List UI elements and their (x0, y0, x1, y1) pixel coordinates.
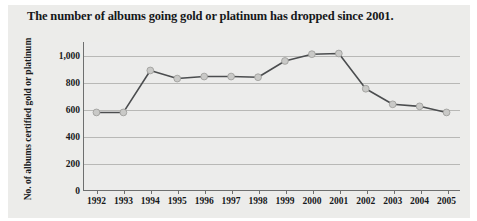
gridline-800 (84, 83, 460, 84)
y-tick-label-1000: 1,000 (38, 51, 80, 61)
x-tick-1997 (232, 190, 233, 194)
y-axis-tick-labels: 02004006008001,000 (36, 42, 80, 191)
x-tick-1998 (259, 190, 260, 194)
chart-screenshot: The number of albums going gold or plati… (0, 0, 477, 221)
x-tick-1995 (178, 190, 179, 194)
y-axis-title: No. of albums certified gold or platinum (22, 36, 35, 202)
x-tick-label-2005: 2005 (427, 196, 467, 207)
x-tick-2000 (313, 190, 314, 194)
x-tick-2001 (340, 190, 341, 194)
y-tick-label-600: 600 (38, 105, 80, 115)
x-tick-1993 (124, 190, 125, 194)
chart-title: The number of albums going gold or plati… (27, 9, 447, 23)
x-tick-1996 (205, 190, 206, 194)
x-tick-2004 (421, 190, 422, 194)
gridline-600 (84, 110, 460, 111)
plot-area (83, 42, 460, 191)
x-tick-1992 (97, 190, 98, 194)
y-tick-label-400: 400 (38, 132, 80, 142)
y-tick-label-800: 800 (38, 78, 80, 88)
y-tick-label-200: 200 (38, 159, 80, 169)
y-tick-label-0: 0 (38, 186, 80, 196)
gridline-200 (84, 164, 460, 165)
gridline-400 (84, 137, 460, 138)
x-tick-1999 (286, 190, 287, 194)
x-tick-2005 (448, 190, 449, 194)
x-tick-1994 (151, 190, 152, 194)
x-tick-2003 (394, 190, 395, 194)
x-tick-2002 (367, 190, 368, 194)
gridline-1000 (84, 56, 460, 57)
